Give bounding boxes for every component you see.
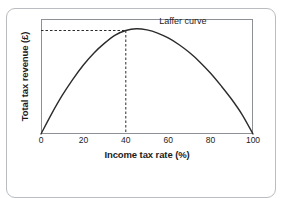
x-tick-label-0: 0 xyxy=(39,135,44,145)
y-axis-title: Total tax revenue (£) xyxy=(19,19,30,134)
plot-area xyxy=(41,19,253,134)
laffer-curve-line xyxy=(41,29,253,134)
x-tick-label-60: 60 xyxy=(163,135,172,145)
x-axis-tick-labels: 020406080100 xyxy=(0,135,283,149)
x-axis-title: Income tax rate (%) xyxy=(41,149,253,160)
laffer-curve-label: Laffer curve xyxy=(159,16,206,26)
x-tick-label-100: 100 xyxy=(246,135,260,145)
x-tick-label-80: 80 xyxy=(206,135,215,145)
x-tick-label-40: 40 xyxy=(121,135,130,145)
laffer-curve-plot xyxy=(41,19,253,134)
x-tick-label-20: 20 xyxy=(79,135,88,145)
